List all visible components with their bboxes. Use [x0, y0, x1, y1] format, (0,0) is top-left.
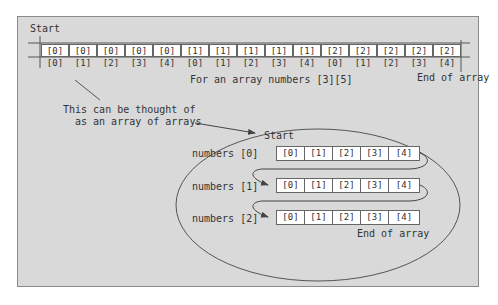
- linear-cell: [1][2]: [237, 44, 265, 57]
- nested-start-label: Start: [264, 130, 294, 142]
- nested-cell: [2]: [332, 178, 361, 193]
- linear-cell: [2][1]: [349, 44, 377, 57]
- linear-cell: [1][4]: [293, 44, 321, 57]
- nested-cell: [2]: [332, 146, 361, 161]
- linear-cell: [2][4]: [433, 44, 461, 57]
- linear-cell: [1][3]: [265, 44, 293, 57]
- linear-cell: [0][3]: [125, 44, 153, 57]
- nested-cell: [0]: [276, 210, 305, 225]
- linear-cell: [0][1]: [69, 44, 97, 57]
- linear-cell: [0][4]: [153, 44, 181, 57]
- row-label: numbers [1]: [192, 181, 258, 193]
- top-end-label: End of array: [417, 72, 489, 84]
- array-caption: For an array numbers [3][5]: [190, 74, 353, 86]
- nested-cell: [1]: [304, 146, 333, 161]
- top-start-label: Start: [30, 23, 60, 35]
- nested-cell: [4]: [388, 178, 420, 193]
- nested-cell: [2]: [332, 210, 361, 225]
- linear-cell: [0][0]: [41, 44, 69, 57]
- linear-cell: [1][0]: [181, 44, 209, 57]
- note-line-1: This can be thought of: [63, 104, 195, 116]
- nested-cell: [1]: [304, 178, 333, 193]
- linear-cell: [0][2]: [97, 44, 125, 57]
- nested-cell: [0]: [276, 178, 305, 193]
- note-line-2: as an array of arrays: [75, 116, 201, 128]
- nested-cell: [0]: [276, 146, 305, 161]
- row-label: numbers [2]: [192, 213, 258, 225]
- nested-cell: [3]: [360, 146, 389, 161]
- nested-cell: [1]: [304, 210, 333, 225]
- linear-cell: [2][3]: [405, 44, 433, 57]
- nested-cell: [4]: [388, 146, 420, 161]
- nested-cell: [3]: [360, 210, 389, 225]
- linear-cell: [1][1]: [209, 44, 237, 57]
- nested-end-label: End of array: [357, 228, 429, 240]
- nested-cell: [3]: [360, 178, 389, 193]
- row-label: numbers [0]: [192, 148, 258, 160]
- linear-cell: [2][2]: [377, 44, 405, 57]
- nested-cell: [4]: [388, 210, 420, 225]
- linear-cell: [2][0]: [321, 44, 349, 57]
